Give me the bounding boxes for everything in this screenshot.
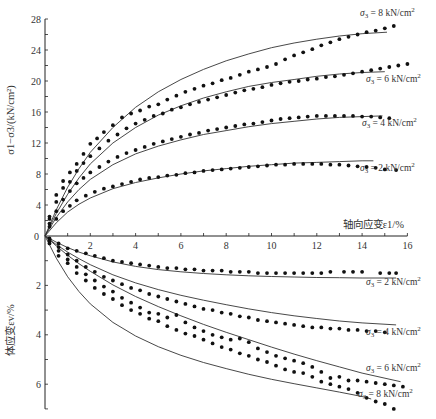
upper-data-point — [197, 131, 201, 135]
lower-data-point — [120, 282, 124, 286]
lower-data-point — [283, 368, 287, 372]
upper-data-point — [301, 162, 305, 166]
upper-data-point — [48, 217, 52, 221]
lower-data-point — [120, 303, 124, 307]
lower-data-point — [66, 261, 70, 265]
upper-data-point — [75, 198, 79, 202]
upper-data-point — [82, 176, 86, 180]
lower-data-point — [274, 271, 278, 275]
upper-data-point — [333, 74, 337, 78]
lower-data-point — [238, 270, 242, 274]
upper-data-point — [82, 152, 86, 156]
lower-data-point — [229, 338, 233, 342]
lower-data-point — [392, 384, 396, 388]
upper-data-point — [333, 114, 337, 118]
upper-data-point — [111, 185, 115, 189]
lower-data-point — [165, 316, 169, 320]
upper-data-point — [265, 65, 269, 69]
upper-data-point — [220, 168, 224, 172]
lower-data-point — [202, 338, 206, 342]
lower-data-point — [57, 249, 61, 253]
upper-fit-curve-3 — [45, 116, 383, 236]
upper-data-point — [238, 166, 242, 170]
upper-data-point — [129, 180, 133, 184]
upper-data-point — [211, 168, 215, 172]
lower-data-point — [184, 302, 188, 306]
lower-data-point — [111, 297, 115, 301]
upper-data-point — [75, 162, 79, 166]
upper-data-point — [283, 163, 287, 167]
upper-data-point — [392, 24, 396, 28]
lower-data-point — [175, 313, 179, 317]
upper-data-point — [292, 162, 296, 166]
lower-data-point — [129, 286, 133, 290]
x-axis-title: 轴向应变ε1/% — [343, 218, 405, 230]
upper-data-point — [68, 204, 72, 208]
lower-data-point — [319, 370, 323, 374]
upper-y-axis-title: σ1−σ3/(kN/cm²) — [5, 85, 17, 155]
lower-data-point — [111, 259, 115, 263]
lower-data-point — [138, 263, 142, 267]
lower-data-point — [102, 256, 106, 260]
lower-data-point — [342, 270, 346, 274]
upper-data-point — [270, 83, 274, 87]
upper-data-point — [193, 87, 197, 91]
lower-data-point — [211, 269, 215, 273]
upper-data-point — [170, 137, 174, 141]
upper-data-point — [102, 130, 106, 134]
lower-data-point — [220, 345, 224, 349]
upper-data-point — [338, 37, 342, 41]
upper-data-point — [179, 135, 183, 139]
upper-data-point — [315, 114, 319, 118]
lower-data-point — [229, 312, 233, 316]
upper-data-point — [68, 189, 72, 193]
upper-data-point — [274, 62, 278, 66]
lower-data-point — [338, 375, 342, 379]
lower-y-tick-label: 2 — [36, 280, 41, 291]
upper-data-point — [88, 154, 92, 158]
upper-data-point — [206, 129, 210, 133]
lower-data-point — [256, 271, 260, 275]
lower-data-point — [84, 251, 88, 255]
upper-data-point — [116, 133, 120, 137]
upper-data-point — [356, 164, 360, 168]
upper-fit-curve-1 — [45, 32, 387, 236]
lower-data-point — [66, 246, 70, 250]
lower-data-point — [301, 324, 305, 328]
lower-data-point — [365, 380, 369, 384]
upper-data-point — [98, 147, 102, 151]
upper-data-point — [347, 35, 351, 39]
upper-data-point — [324, 75, 328, 79]
upper-series-label: σ3 = 2 kN/cm2 — [360, 161, 415, 175]
upper-data-point — [161, 140, 165, 144]
lower-data-point — [57, 254, 61, 258]
upper-data-point — [152, 114, 156, 118]
y-tick-label: 16 — [31, 107, 41, 118]
lower-data-point — [211, 342, 215, 346]
upper-data-point — [319, 162, 323, 166]
lower-data-point — [229, 348, 233, 352]
upper-data-point — [125, 151, 129, 155]
y-tick-label: 4 — [36, 200, 41, 211]
upper-data-point — [215, 95, 219, 99]
upper-data-point — [156, 175, 160, 179]
lower-data-point — [347, 379, 351, 383]
lower-data-point — [84, 265, 88, 269]
upper-data-point — [184, 90, 188, 94]
lower-series-label: σ3 = 8 kN/cm2 — [358, 387, 413, 401]
upper-data-point — [324, 114, 328, 118]
lower-data-point — [338, 385, 342, 389]
upper-data-point — [224, 126, 228, 130]
lower-data-point — [193, 334, 197, 338]
lower-data-point — [147, 292, 151, 296]
upper-data-point — [356, 33, 360, 37]
lower-data-point — [147, 317, 151, 321]
lower-data-point — [292, 323, 296, 327]
upper-data-point — [68, 180, 72, 184]
lower-data-point — [374, 400, 378, 404]
lower-y-tick-label: 6 — [36, 379, 41, 390]
upper-data-point — [338, 163, 342, 167]
upper-data-point — [156, 102, 160, 106]
lower-data-point — [292, 359, 296, 363]
x-tick-label: 14 — [357, 240, 367, 251]
